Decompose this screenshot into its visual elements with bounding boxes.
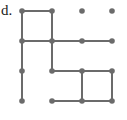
graph-vertex [79,38,85,44]
graph-edges-group [22,11,112,101]
graph-vertex [79,68,85,74]
graph-vertex [19,98,25,104]
graph-vertex [49,8,55,14]
graph-vertex [49,98,55,104]
graph-vertex [109,38,115,44]
graph-vertex [19,8,25,14]
graph-vertex [79,98,85,104]
graph-vertex [19,38,25,44]
lattice-graph-diagram [0,0,127,120]
graph-vertex [19,68,25,74]
graph-vertex [109,8,115,14]
graph-vertex [79,8,85,14]
graph-vertex [49,68,55,74]
graph-vertex [109,68,115,74]
graph-vertex [109,98,115,104]
graph-vertices-group [19,8,115,104]
graph-vertex [49,38,55,44]
figure-container: d. [0,0,127,120]
